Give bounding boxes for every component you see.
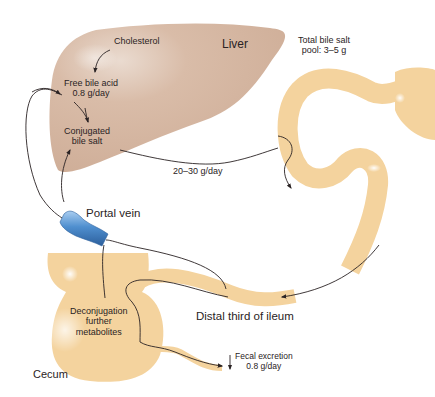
cecum-label: Cecum	[33, 368, 68, 381]
cholesterol-label: Cholesterol	[114, 36, 160, 46]
conjugated-text-1: Conjugated	[64, 126, 110, 136]
biliary-secretion-line	[120, 148, 278, 164]
cecum-text-1: Deconjugation	[70, 306, 128, 316]
distal-ileum	[140, 275, 295, 299]
bile-salt-pool-label: Total bile salt pool: 3–5 g	[298, 35, 350, 56]
biliary-secretion-rate: 20–30 g/day	[173, 166, 223, 176]
enterohepatic-diagram	[0, 0, 435, 397]
pool-text-1: Total bile salt	[298, 35, 350, 45]
cecum-process-label: Deconjugation further metabolites	[70, 306, 128, 337]
small-intestine	[288, 68, 435, 270]
liver-label: Liver	[222, 38, 248, 52]
conjugated-bile-salt-label: Conjugated bile salt	[64, 126, 110, 147]
ileum-label: Distal third of ileum	[196, 310, 294, 323]
pool-text-2: pool: 3–5 g	[298, 45, 350, 55]
free-bile-acid-rate: 0.8 g/day	[64, 88, 118, 98]
cecum-text-2: further	[70, 316, 128, 326]
portal-vein-label: Portal vein	[86, 207, 140, 220]
fecal-text-2: 0.8 g/day	[235, 362, 293, 372]
cecum-text-3: metabolites	[70, 327, 128, 337]
conjugated-text-2: bile salt	[64, 136, 110, 146]
fecal-excretion-label: Fecal excretion 0.8 g/day	[235, 352, 293, 372]
free-bile-acid-text: Free bile acid	[64, 78, 118, 88]
free-bile-acid-label: Free bile acid 0.8 g/day	[64, 78, 118, 99]
